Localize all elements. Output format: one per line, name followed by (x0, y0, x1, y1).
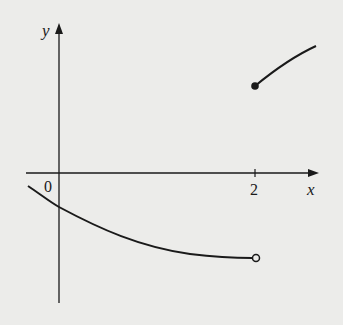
x-tick-label-2: 2 (250, 181, 258, 198)
left-branch-curve (28, 186, 252, 258)
function-graph: y x 0 2 (0, 0, 343, 325)
y-axis-label: y (40, 21, 50, 40)
open-endpoint-icon (253, 255, 260, 262)
origin-label: 0 (44, 178, 52, 195)
right-branch-curve (255, 46, 316, 86)
x-axis-label: x (306, 180, 315, 199)
x-axis-arrow-icon (308, 169, 319, 177)
closed-endpoint-icon (251, 82, 259, 90)
y-axis-arrow-icon (55, 23, 63, 34)
